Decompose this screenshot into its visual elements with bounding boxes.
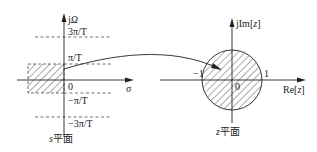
z-plane xyxy=(160,18,306,123)
tick-neg-3pi-label: −3π/T xyxy=(68,119,93,129)
mapping-curve xyxy=(64,55,220,69)
s-plane-hatched-strip xyxy=(28,64,64,93)
s-plane-caption: s平面 xyxy=(49,134,73,144)
z-real-axis-label: Re[z] xyxy=(283,85,305,95)
z-one-label: 1 xyxy=(264,69,269,79)
z-neg-one-label: −1 xyxy=(193,69,204,79)
z-origin-label: 0 xyxy=(235,82,240,92)
s-imag-axis-arrow-icon xyxy=(62,13,67,22)
tick-3pi-label: 3π/T xyxy=(68,27,87,37)
z-plane-caption: z平面 xyxy=(216,127,240,137)
s-origin-label: 0 xyxy=(68,82,73,92)
tick-pi-label: π/T xyxy=(68,53,82,63)
s-real-axis-arrow-icon xyxy=(125,78,134,83)
mapping-diagram xyxy=(0,0,317,152)
z-imag-axis-label: jIm[z] xyxy=(236,19,260,29)
sigma-label: σ xyxy=(126,84,131,94)
s-imag-axis-label: jΩ xyxy=(68,15,78,25)
z-imag-axis-arrow-icon xyxy=(230,18,235,27)
z-real-axis-arrow-icon xyxy=(297,78,306,83)
tick-neg-pi-label: −π/T xyxy=(68,96,88,106)
